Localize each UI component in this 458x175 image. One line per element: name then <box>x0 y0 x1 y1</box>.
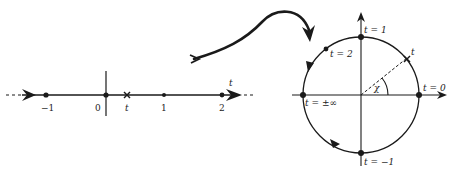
tick-label-one: 1 <box>161 103 167 113</box>
point-t-cross-icon <box>404 56 410 62</box>
label-t-2: t = 2 <box>330 49 353 59</box>
point-minus-one <box>43 92 48 97</box>
tick-label-two: 2 <box>219 103 225 113</box>
label-t-0: t = 0 <box>423 83 446 93</box>
radius-to-t <box>361 58 407 95</box>
mapping-arrow-curve <box>194 12 309 59</box>
label-t-minus-1: t = −1 <box>364 157 394 167</box>
axis-label-t: t <box>229 78 233 88</box>
variable-point-label: t <box>125 103 129 113</box>
label-t-infinity: t = ±∞ <box>305 98 337 108</box>
point-two <box>220 93 225 98</box>
tick-label-minus-one: −1 <box>41 103 54 113</box>
point-t-0 <box>416 92 422 98</box>
point-t-2 <box>324 47 329 52</box>
point-t-minus-1 <box>358 150 364 156</box>
point-zero <box>103 92 108 97</box>
diagram-canvas: −1 0 t 1 2 t <box>0 0 458 175</box>
tick-label-zero: 0 <box>95 103 101 113</box>
label-t-1: t = 1 <box>364 25 387 35</box>
point-one <box>162 93 166 97</box>
mapping-arrow <box>190 12 315 63</box>
arc-arrow-lower-left-icon <box>330 139 340 148</box>
unit-circle-diagram: t = 1 t = 2 t = ±∞ t = 0 t = −1 t χ <box>292 12 447 167</box>
number-line: −1 0 t 1 2 t <box>6 71 256 116</box>
diagram-svg: −1 0 t 1 2 t <box>0 0 458 175</box>
label-t: t <box>411 47 415 57</box>
angle-label-chi: χ <box>373 83 380 93</box>
angle-arc <box>382 78 388 95</box>
